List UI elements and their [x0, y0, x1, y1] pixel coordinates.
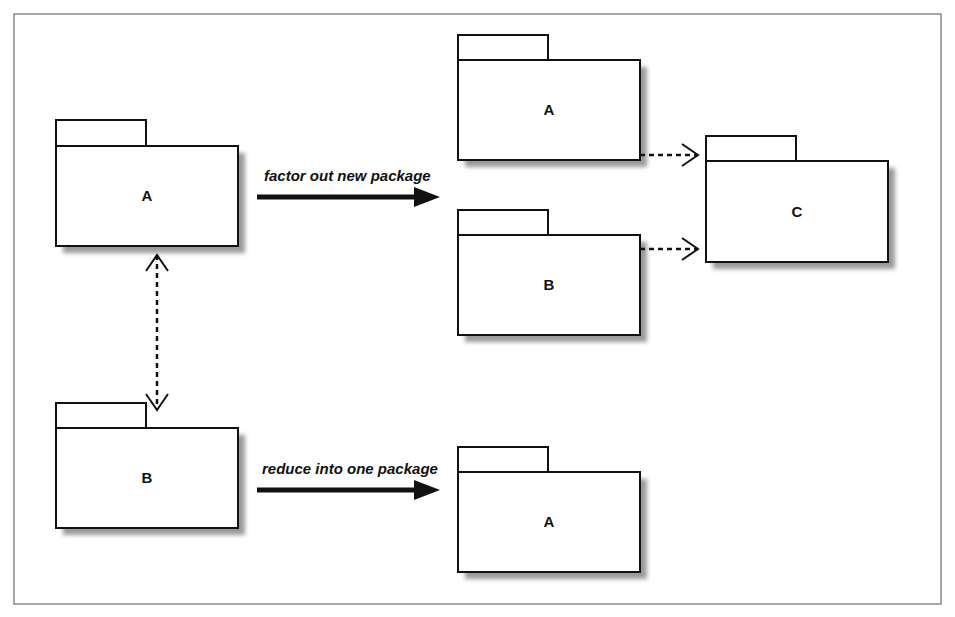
transform-label: reduce into one package	[262, 460, 438, 477]
transform-label: factor out new package	[264, 167, 431, 184]
package-left-a: A	[56, 120, 245, 253]
package-factored-c: C	[706, 136, 895, 269]
package-label: A	[544, 513, 555, 530]
package-factored-a: A	[458, 35, 647, 167]
package-label: B	[544, 276, 555, 293]
package-diagram: ABABCA factor out new packagereduce into…	[0, 0, 955, 617]
arrowhead-icon	[414, 187, 440, 207]
package-tab	[706, 136, 796, 161]
package-tab	[56, 403, 146, 428]
packages-layer: ABABCA	[56, 35, 895, 579]
dependency-a-b-cycle	[146, 255, 168, 410]
package-tab	[458, 210, 548, 235]
package-label: B	[142, 469, 153, 486]
package-tab	[56, 120, 146, 146]
dependency-a-to-c	[640, 144, 698, 166]
package-label: C	[792, 203, 803, 220]
transform-arrow-factor-out: factor out new package	[257, 167, 440, 207]
package-reduced-a: A	[458, 447, 647, 579]
package-tab	[458, 447, 548, 472]
arrowhead-icon	[414, 480, 440, 500]
package-label: A	[142, 187, 153, 204]
package-factored-b: B	[458, 210, 647, 342]
package-left-b: B	[56, 403, 245, 535]
dependency-b-to-c	[640, 238, 698, 260]
transform-arrow-reduce: reduce into one package	[257, 460, 440, 500]
package-tab	[458, 35, 548, 60]
package-label: A	[544, 101, 555, 118]
